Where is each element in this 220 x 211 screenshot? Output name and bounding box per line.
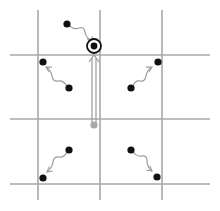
target-particle	[91, 43, 98, 50]
particle-lower-right-end	[153, 173, 160, 180]
particle-lower-right-start	[127, 146, 134, 153]
ghost-particle	[90, 121, 97, 128]
particle-upper-right-end	[154, 58, 161, 65]
particle-upper-left-start	[65, 84, 72, 91]
wavy-arrow-lower-left	[47, 152, 67, 172]
wavy-arrow-upper-right	[133, 67, 152, 86]
grid-lines	[10, 10, 210, 200]
lattice-diagram	[0, 0, 220, 211]
wavy-arrow-top	[69, 26, 92, 42]
wavy-arrow-upper-left	[46, 67, 67, 86]
wavy-arrow-lower-right	[133, 152, 152, 171]
particle-upper-right-start	[127, 84, 134, 91]
particle-lower-left-end	[39, 174, 46, 181]
target-site	[87, 39, 101, 53]
particle-top-start	[63, 20, 70, 27]
straight-path-arrow	[89, 55, 99, 123]
particle-lower-left-start	[65, 146, 72, 153]
particle-upper-left-end	[39, 58, 46, 65]
